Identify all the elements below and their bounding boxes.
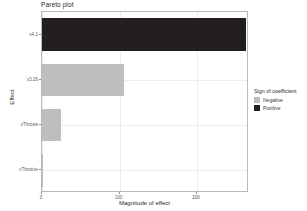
legend: Sign of coefficient NegativePositive — [254, 88, 304, 112]
y-tick-label: x3.26 — [2, 76, 38, 81]
legend-item[interactable]: Positive — [254, 105, 304, 111]
legend-swatch — [254, 97, 260, 103]
y-tick-mark — [39, 124, 41, 125]
y-tick-label: xThrotive — [2, 167, 38, 172]
x-tick-mark — [41, 192, 42, 194]
legend-items: NegativePositive — [254, 97, 304, 111]
legend-item-label: Positive — [263, 105, 281, 111]
legend-title: Sign of coefficient — [254, 88, 304, 94]
legend-item-label: Negative — [263, 97, 283, 103]
bar — [42, 18, 246, 51]
x-axis-label: Magnitude of effect — [41, 200, 248, 206]
legend-swatch — [254, 105, 260, 111]
plot-panel — [41, 11, 248, 192]
y-tick-label: xThrows — [2, 122, 38, 127]
legend-item[interactable]: Negative — [254, 97, 304, 103]
pareto-plot-figure: Pareto plot 0100200x4.1x3.26xThrowsxThro… — [0, 0, 307, 211]
y-tick-mark — [39, 34, 41, 35]
x-tick-mark — [196, 192, 197, 194]
bars-layer — [42, 12, 247, 191]
bar — [42, 154, 43, 187]
chart-title: Pareto plot — [41, 1, 74, 8]
bar — [42, 109, 61, 142]
y-axis-label: Effect — [9, 77, 15, 117]
y-tick-label: x4.1 — [2, 31, 38, 36]
x-tick-mark — [119, 192, 120, 194]
bar — [42, 64, 124, 97]
y-tick-mark — [39, 169, 41, 170]
y-tick-mark — [39, 79, 41, 80]
